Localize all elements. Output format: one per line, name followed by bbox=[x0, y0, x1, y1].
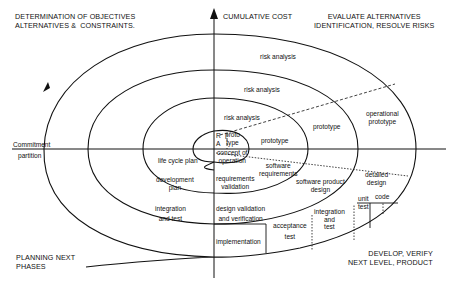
concept-of-operation: concept of operation bbox=[217, 149, 247, 164]
implementation: implementation bbox=[216, 238, 261, 246]
prototype-2: prototype bbox=[261, 137, 289, 145]
acceptance-test: acceptance test bbox=[273, 220, 307, 242]
prototype-1: proto type bbox=[225, 131, 240, 146]
cumulative-cost-arrow-icon bbox=[210, 8, 218, 19]
develop-quadrant-label: DEVELOP, VERIFY NEXT LEVEL, PRODUCT bbox=[348, 250, 433, 267]
prototype-3: prototype bbox=[313, 123, 341, 131]
risk-analysis-outer: risk analysis bbox=[260, 53, 296, 61]
a-marker: A bbox=[216, 140, 220, 148]
integration-and-test-plan: integration and test bbox=[155, 204, 186, 224]
design-validation-and-verification: design validation and verification bbox=[216, 204, 265, 224]
operational-prototype: operational prototype bbox=[366, 110, 399, 125]
risk-analysis-inner: risk analysis bbox=[224, 114, 260, 122]
cumulative-cost-label: CUMULATIVE COST bbox=[223, 13, 292, 22]
commitment-label: Commitment bbox=[13, 141, 50, 149]
development-plan: development plan bbox=[156, 176, 194, 191]
evaluate-quadrant-label: EVALUATE ALTERNATIVES IDENTIFICATION, RE… bbox=[314, 13, 434, 30]
detailed-design: detailed design bbox=[365, 171, 388, 186]
code: code bbox=[375, 193, 389, 201]
product-dividers bbox=[216, 153, 408, 250]
unit-test: unit test bbox=[358, 195, 369, 210]
spiral-direction-arrow-icon bbox=[43, 82, 50, 92]
objectives-quadrant-label: DETERMINATION OF OBJECTIVES ALTERNATIVES… bbox=[15, 13, 135, 30]
software-product-design: software product design bbox=[296, 178, 345, 193]
life-cycle-plan: life cycle plan bbox=[158, 157, 198, 165]
r-marker: R bbox=[216, 132, 221, 140]
integration-and-test: integration and test bbox=[314, 208, 345, 231]
risk-analysis-middle: risk analysis bbox=[244, 86, 280, 94]
partition-label: partition bbox=[18, 152, 41, 160]
requirements-validation: requirements validation bbox=[216, 175, 254, 190]
planning-quadrant-label: PLANNING NEXT PHASES bbox=[16, 254, 75, 271]
software-requirements: software requirements bbox=[259, 162, 297, 177]
